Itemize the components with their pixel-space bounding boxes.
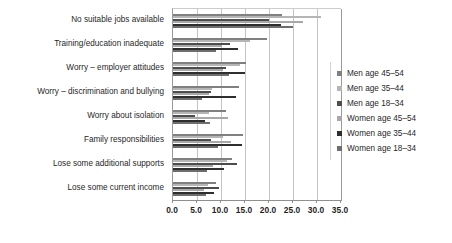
legend-item[interactable]: Women age 35–44 [337, 126, 446, 141]
category-label: Worry – employer attitudes [0, 63, 164, 72]
bar-group [173, 158, 341, 172]
bar [173, 122, 210, 124]
legend-item[interactable]: Men age 35–44 [337, 81, 446, 96]
bar [173, 170, 207, 172]
category-label: Lose some current income [0, 183, 164, 192]
legend-item[interactable]: Women age 45–54 [337, 111, 446, 126]
bar-group [173, 14, 341, 28]
legend-swatch-icon [337, 131, 342, 136]
category-label: Lose some additional supports [0, 159, 164, 168]
x-axis-tick [340, 200, 341, 203]
chart-legend: Men age 45–54Men age 35–44Men age 18–34W… [330, 62, 448, 160]
category-label: Worry – discrimination and bullying [0, 87, 164, 96]
bar-group [173, 86, 341, 100]
bar [173, 74, 229, 76]
plot-area [172, 8, 341, 201]
bar [173, 146, 218, 148]
bar [173, 26, 293, 28]
legend-swatch-icon [337, 146, 342, 151]
bar-group [173, 134, 341, 148]
legend-swatch-icon [337, 116, 342, 121]
legend-item[interactable]: Women age 18–34 [337, 141, 446, 156]
category-label: Worry about isolation [0, 111, 164, 120]
x-axis-tick [244, 200, 245, 203]
legend-label: Men age 45–54 [347, 69, 404, 78]
bar [173, 50, 216, 52]
legend-item[interactable]: Men age 45–54 [337, 66, 446, 81]
legend-label: Men age 18–34 [347, 99, 404, 108]
bar-chart: No suitable jobs availableTraining/educa… [0, 0, 452, 243]
bar-group [173, 110, 341, 124]
x-axis-tick [316, 200, 317, 203]
bar [173, 194, 206, 196]
bar-group [173, 38, 341, 52]
x-axis-tick [292, 200, 293, 203]
x-axis-tick [196, 200, 197, 203]
category-label: Training/education inadequate [0, 39, 164, 48]
category-label: No suitable jobs available [0, 15, 164, 24]
legend-item[interactable]: Men age 18–34 [337, 96, 446, 111]
legend-label: Men age 35–44 [347, 84, 404, 93]
category-label: Family responsibilities [0, 135, 164, 144]
x-axis-tick [172, 200, 173, 203]
legend-label: Women age 35–44 [347, 129, 416, 138]
x-axis-tick-label: 35.0 [320, 205, 360, 215]
legend-swatch-icon [337, 71, 342, 76]
x-axis-tick [268, 200, 269, 203]
bar [173, 98, 202, 100]
category-axis: No suitable jobs availableTraining/educa… [0, 8, 168, 200]
bar-group [173, 62, 341, 76]
legend-label: Women age 18–34 [347, 144, 416, 153]
legend-swatch-icon [337, 101, 342, 106]
bar-group [173, 182, 341, 196]
legend-label: Women age 45–54 [347, 114, 416, 123]
x-axis-tick [220, 200, 221, 203]
legend-swatch-icon [337, 86, 342, 91]
